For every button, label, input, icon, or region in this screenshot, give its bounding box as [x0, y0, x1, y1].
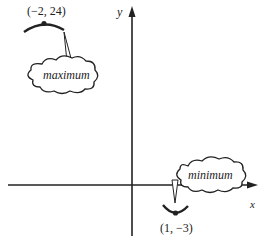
- x-axis-label: x: [249, 198, 255, 210]
- x-axis-arrow-icon: [247, 182, 258, 189]
- y-axis-label: y: [116, 5, 123, 19]
- maximum-point-label: (−2, 24): [27, 4, 66, 18]
- graph-diagram: y x (−2, 24) maximum minimum (1, −3): [0, 0, 262, 240]
- y-axis: [129, 6, 136, 236]
- maximum-point: [41, 21, 46, 26]
- minimum-point-label: (1, −3): [160, 221, 193, 235]
- minimum-callout-text: minimum: [188, 168, 233, 182]
- minimum-point: [173, 210, 178, 215]
- maximum-callout-text: maximum: [43, 68, 90, 82]
- minimum-callout-pointer: [172, 180, 178, 203]
- y-axis-arrow-icon: [129, 6, 136, 17]
